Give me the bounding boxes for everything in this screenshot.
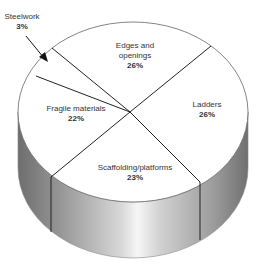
label-fragile-materials: Fragile materials 22% xyxy=(36,104,116,124)
label-edges-and-openings: Edges and openings 26% xyxy=(100,41,170,71)
label-scaffolding-platforms: Scaffolding/platforms 23% xyxy=(85,163,185,183)
steelwork-pointer-arrow xyxy=(26,36,48,62)
label-ladders: Ladders 26% xyxy=(182,100,232,120)
label-steelwork: Steelwork 3% xyxy=(0,12,44,32)
